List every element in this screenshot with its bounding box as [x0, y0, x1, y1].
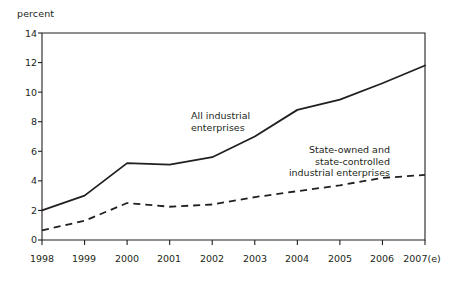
plot-frame [42, 33, 425, 240]
series-line-all-industrial-enterprises [42, 66, 425, 211]
annotation-line: industrial enterprises [289, 167, 390, 179]
annotation-line: State-owned and [289, 144, 390, 156]
x-tick-marks [42, 240, 425, 245]
axes-frame [42, 33, 425, 240]
annotation-line: enterprises [191, 122, 250, 134]
annotation-all-industrial-enterprises: All industrial enterprises [191, 110, 250, 133]
y-tick-marks [38, 33, 42, 240]
plot-area [0, 0, 450, 282]
annotation-line: All industrial [191, 110, 250, 122]
chart-container: percent 14 12 10 8 6 4 2 0 1998 1999 200… [0, 0, 450, 282]
annotation-line: state-controlled [289, 156, 390, 168]
annotation-state-owned-enterprises: State-owned and state-controlled industr… [289, 144, 390, 179]
